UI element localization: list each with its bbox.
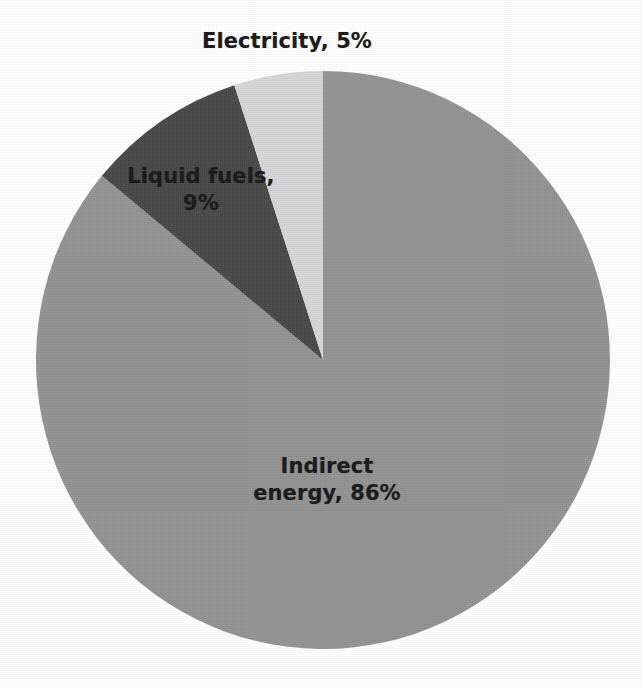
pie-chart-plot-area: [36, 71, 610, 649]
pie-label-liquid-fuels: Liquid fuels, 9%: [110, 163, 292, 217]
pie-chart-svg: [36, 71, 610, 649]
pie-chart-figure: Electricity, 5% Liquid fuels, 9% Indirec…: [0, 0, 643, 687]
pie-label-indirect-energy: Indirect energy, 86%: [227, 453, 427, 507]
pie-label-electricity: Electricity, 5%: [182, 28, 392, 55]
